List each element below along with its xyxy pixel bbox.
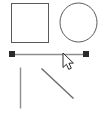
drawing-canvas[interactable]	[0, 0, 103, 115]
mouse-pointer-arrow-icon	[63, 53, 73, 69]
cursor-layer	[0, 0, 103, 115]
arrow-cursor	[63, 53, 73, 69]
